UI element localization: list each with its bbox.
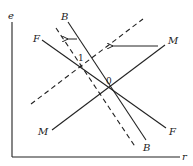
point-0-label: 0 — [106, 76, 112, 86]
f-curve-label-lower: F — [168, 126, 177, 137]
f-curve-label-upper: F — [32, 33, 41, 44]
f-curve — [42, 40, 166, 128]
y-axis-label: e — [8, 10, 14, 21]
m-curve-label-lower: M — [37, 126, 49, 137]
economics-diagram: e r M M F F B B 1 0 — [0, 0, 193, 166]
b-curve-label-lower: B — [142, 142, 150, 153]
point-1-label: 1 — [78, 53, 84, 63]
x-axis-label: r — [182, 151, 188, 162]
m-curve-label-upper: M — [167, 35, 179, 46]
b-curve-label-upper: B — [60, 11, 68, 22]
m-curve-shifted — [31, 19, 143, 104]
diagram-canvas: e r M M F F B B 1 0 — [0, 0, 193, 166]
